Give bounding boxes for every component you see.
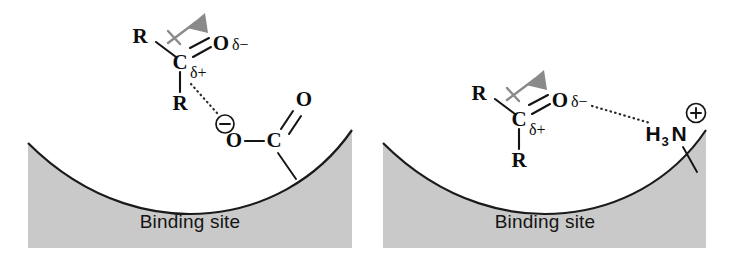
figure-canvas: Binding site R C R O δ− δ+ xyxy=(0,0,729,255)
atom-label-r-bottom-right: R xyxy=(511,148,527,172)
bond-carboxylate-double-b-left xyxy=(289,116,301,134)
atom-label-oxygen-right: O xyxy=(552,88,568,112)
dipole-arrowhead-left xyxy=(187,13,208,33)
atom-label-oxygen-left: O xyxy=(213,31,229,55)
dipole-arrow-right xyxy=(507,70,547,101)
bond-carbonyl-double-a-left xyxy=(190,38,209,48)
partial-charge-carbon-right: δ+ xyxy=(529,121,546,138)
ligand-carbonyl-left: R C R O δ− δ+ xyxy=(132,13,248,115)
panel-right: Binding site R C R O δ− δ+ H 3 N xyxy=(383,70,706,248)
bond-carbonyl-double-b-left xyxy=(193,47,211,57)
binding-site-label-left: Binding site xyxy=(140,211,241,232)
atom-label-r-bottom-left: R xyxy=(172,91,188,115)
atom-label-hydrogen-right: H xyxy=(645,122,660,145)
bond-carbonyl-double-a-right xyxy=(529,95,548,105)
bond-carbonyl-double-b-right xyxy=(532,104,550,114)
partial-charge-oxygen-left: δ− xyxy=(232,36,249,53)
panel-left: Binding site R C R O δ− δ+ xyxy=(28,13,352,248)
dipole-arrow-left xyxy=(168,13,208,44)
partial-charge-carbon-left: δ+ xyxy=(190,64,207,81)
atom-label-carbon-left: C xyxy=(172,50,187,74)
atom-label-r-top-left: R xyxy=(132,24,148,48)
atom-label-carbon-carboxylate-left: C xyxy=(266,128,281,152)
ionic-interaction-dotted-left xyxy=(191,84,217,113)
atom-label-oxygen-anion-left: O xyxy=(226,128,242,152)
dipole-arrowhead-right xyxy=(526,70,547,90)
bond-carboxylate-double-a-left xyxy=(281,111,293,129)
bond-carboxylate-to-surface-left xyxy=(278,153,296,179)
carboxylate-group-left: O C O xyxy=(216,87,312,179)
binding-site-label-right: Binding site xyxy=(495,211,596,232)
hydrogen-bond-dotted-right xyxy=(592,106,650,123)
circled-plus-icon-right xyxy=(687,104,706,123)
atom-label-nitrogen-right: N xyxy=(671,122,686,145)
partial-charge-oxygen-right: δ− xyxy=(571,93,588,110)
atom-label-oxygen-carbonyl-left: O xyxy=(296,87,312,111)
atom-label-hydrogen-subscript-right: 3 xyxy=(661,134,668,149)
atom-label-carbon-right: C xyxy=(511,107,526,131)
ligand-carbonyl-right: R C R O δ− δ+ xyxy=(471,70,587,172)
atom-label-r-top-right: R xyxy=(471,81,487,105)
